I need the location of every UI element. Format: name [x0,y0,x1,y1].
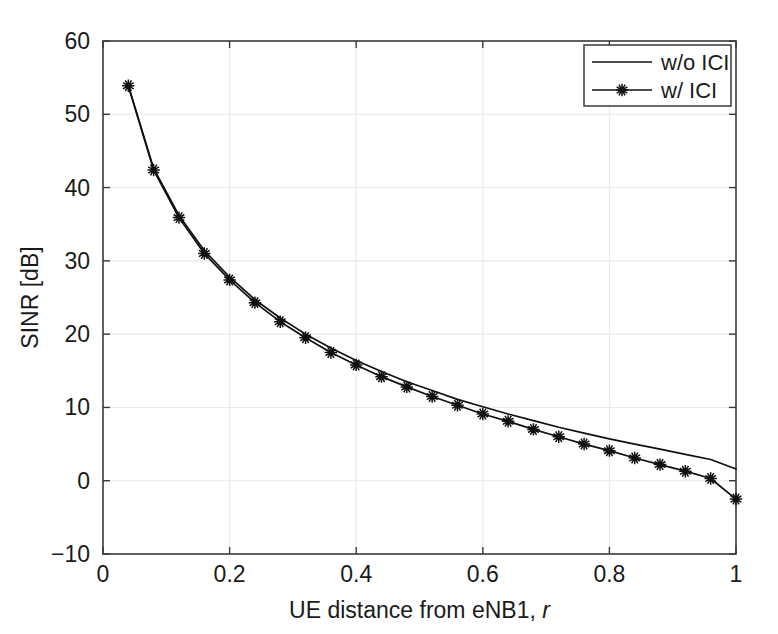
y-tick-label: 50 [64,101,90,127]
x-tick-label: 0 [97,561,110,587]
x-tick-label: 0.2 [214,561,246,587]
x-tick-label: 0.4 [340,561,372,587]
x-axis-title-variable: r [542,597,551,623]
legend-label-0: w/o ICI [660,50,729,75]
y-tick-label: 10 [64,394,90,420]
y-tick-label: 0 [77,468,90,494]
y-tick-label: 30 [64,248,90,274]
sinr-vs-distance-chart: 00.20.40.60.81 −100102030405060 UE dista… [0,0,778,634]
chart-figure: 00.20.40.60.81 −100102030405060 UE dista… [0,0,778,634]
x-tick-label: 0.6 [467,561,499,587]
y-tick-label: −10 [51,541,90,567]
legend-label-1: w/ ICI [660,78,717,103]
x-axis-title: UE distance from eNB1, r [289,597,551,623]
chart-legend: w/o ICIw/ ICI [584,45,731,106]
y-axis-title: SINR [dB] [17,246,43,348]
y-tick-label: 20 [64,321,90,347]
x-tick-label: 0.8 [593,561,625,587]
x-axis-title-main: UE distance from eNB1, [289,597,542,623]
y-tick-label: 60 [64,28,90,54]
y-tick-label: 40 [64,175,90,201]
x-tick-label: 1 [730,561,743,587]
